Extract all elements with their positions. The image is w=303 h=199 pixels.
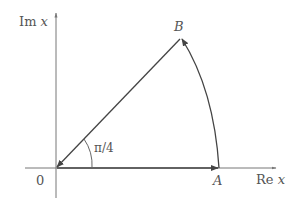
contour-diagram: Im x Re x 0 A B π/4 — [0, 0, 303, 199]
re-axis-label: Re x — [256, 172, 286, 187]
point-a-label: A — [212, 173, 222, 188]
angle-arc — [84, 139, 92, 168]
segment-b-to-origin — [57, 39, 180, 167]
origin-label: 0 — [36, 173, 44, 188]
arc-a-to-b — [182, 39, 219, 168]
im-axis-label: Im x — [19, 14, 49, 29]
point-b-label: B — [173, 19, 184, 34]
angle-label: π/4 — [94, 141, 114, 155]
